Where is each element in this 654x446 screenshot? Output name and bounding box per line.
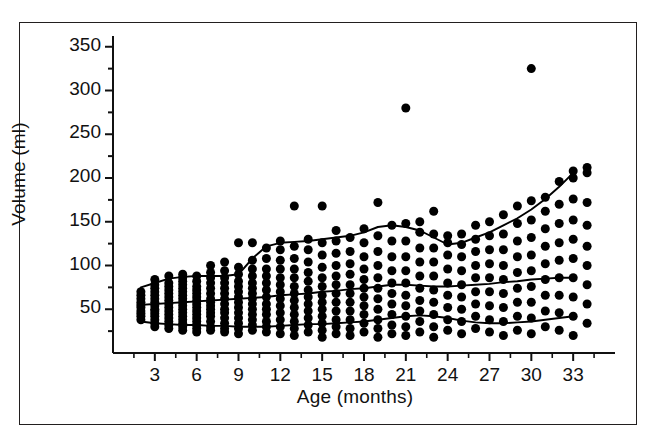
percentile-lines-layer [141, 173, 573, 327]
figure-container: Volume (ml) Age (months) 501001502002503… [0, 0, 654, 446]
scatter-plot [0, 0, 654, 446]
